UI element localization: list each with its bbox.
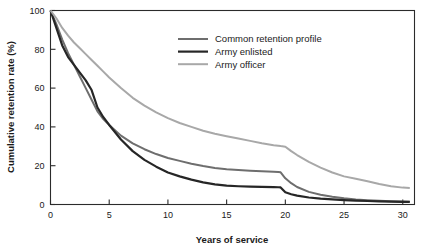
legend-label-2: Army officer	[215, 59, 266, 70]
y-axis-title: Cumulative retention rate (%)	[5, 41, 16, 173]
x-tick-label-5: 5	[107, 210, 112, 220]
x-tick-label-30: 30	[398, 210, 408, 220]
legend-label-0: Common retention profile	[215, 33, 322, 44]
y-tick-label-40: 40	[34, 122, 44, 132]
y-tick-label-60: 60	[34, 83, 44, 93]
y-tick-label-80: 80	[34, 45, 44, 55]
legend-label-1: Army enlisted	[215, 46, 273, 57]
x-axis-title: Years of service	[196, 234, 268, 245]
x-tick-label-0: 0	[48, 210, 53, 220]
y-tick-label-100: 100	[29, 6, 44, 16]
x-tick-label-20: 20	[280, 210, 290, 220]
x-tick-label-10: 10	[163, 210, 173, 220]
y-tick-label-20: 20	[34, 161, 44, 171]
y-tick-label-0: 0	[39, 200, 44, 210]
x-tick-label-15: 15	[222, 210, 232, 220]
x-tick-label-25: 25	[339, 210, 349, 220]
retention-chart: 051015202530 020406080100 Years of servi…	[0, 0, 430, 252]
